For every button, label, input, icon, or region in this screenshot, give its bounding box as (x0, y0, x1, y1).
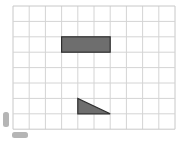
horizontal-smudge (12, 132, 28, 138)
rectangle-shape (62, 37, 111, 52)
shape-layer (62, 37, 111, 114)
vertical-smudge (3, 112, 9, 127)
smudge-layer (3, 112, 28, 138)
grid-canvas (0, 0, 177, 152)
grid-diagram (0, 0, 177, 152)
